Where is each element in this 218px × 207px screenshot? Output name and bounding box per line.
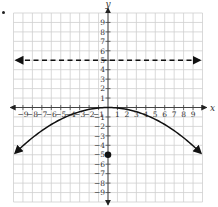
svg-text:2: 2 bbox=[100, 84, 105, 93]
svg-text:9: 9 bbox=[100, 18, 105, 27]
svg-text:−3: −3 bbox=[94, 132, 105, 141]
svg-text:−8: −8 bbox=[94, 179, 105, 188]
coordinate-plane: −9−8−7−6−5−4−3−2−1123456789987654321−1−2… bbox=[0, 0, 218, 207]
y-axis-label: y bbox=[105, 0, 112, 9]
svg-text:7: 7 bbox=[100, 37, 105, 46]
axes bbox=[11, 8, 207, 205]
x-axis-label: x bbox=[210, 103, 215, 113]
svg-text:8: 8 bbox=[181, 110, 186, 119]
svg-text:−4: −4 bbox=[94, 141, 105, 150]
svg-text:7: 7 bbox=[172, 110, 177, 119]
svg-text:1: 1 bbox=[115, 110, 120, 119]
svg-text:−2: −2 bbox=[94, 122, 105, 131]
svg-text:1: 1 bbox=[100, 94, 105, 103]
svg-text:−1: −1 bbox=[94, 113, 105, 122]
svg-text:6: 6 bbox=[162, 110, 167, 119]
svg-text:9: 9 bbox=[191, 110, 196, 119]
svg-text:4: 4 bbox=[100, 65, 105, 74]
svg-text:−9: −9 bbox=[94, 188, 105, 197]
svg-text:5: 5 bbox=[153, 110, 158, 119]
svg-text:8: 8 bbox=[100, 28, 105, 37]
svg-text:3: 3 bbox=[100, 75, 105, 84]
svg-text:6: 6 bbox=[100, 47, 105, 56]
svg-text:2: 2 bbox=[125, 110, 130, 119]
svg-text:−6: −6 bbox=[94, 160, 105, 169]
focus-point bbox=[105, 151, 112, 158]
svg-text:−7: −7 bbox=[94, 169, 105, 178]
svg-text:−5: −5 bbox=[94, 150, 105, 159]
